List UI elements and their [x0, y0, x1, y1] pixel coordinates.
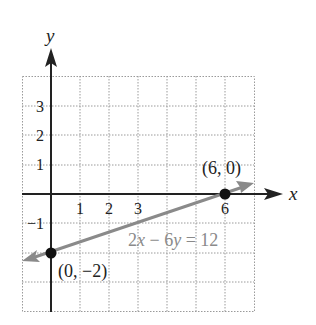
y-axis-label: y: [44, 25, 55, 46]
y-tick-3: 3: [36, 98, 44, 115]
point-6-0: [220, 189, 231, 200]
x-tick-1: 1: [76, 200, 84, 217]
point-0-neg2: [46, 248, 57, 259]
y-tick-neg1: −1: [27, 215, 44, 232]
x-axis-label: x: [288, 183, 298, 204]
point-label-0-neg2: (0, −2): [58, 261, 107, 282]
point-label-6-0: (6, 0): [202, 158, 241, 179]
x-tick-6: 6: [221, 200, 229, 217]
x-tick-2: 2: [105, 200, 113, 217]
y-tick-2: 2: [36, 127, 44, 144]
y-tick-1: 1: [36, 156, 44, 173]
x-tick-3: 3: [134, 200, 142, 217]
coordinate-graph: x y 1 2 3 6 3 2 1 −1 2x − 6y = 12 (6, 0)…: [0, 0, 316, 325]
equation-label: 2x − 6y = 12: [128, 230, 218, 250]
